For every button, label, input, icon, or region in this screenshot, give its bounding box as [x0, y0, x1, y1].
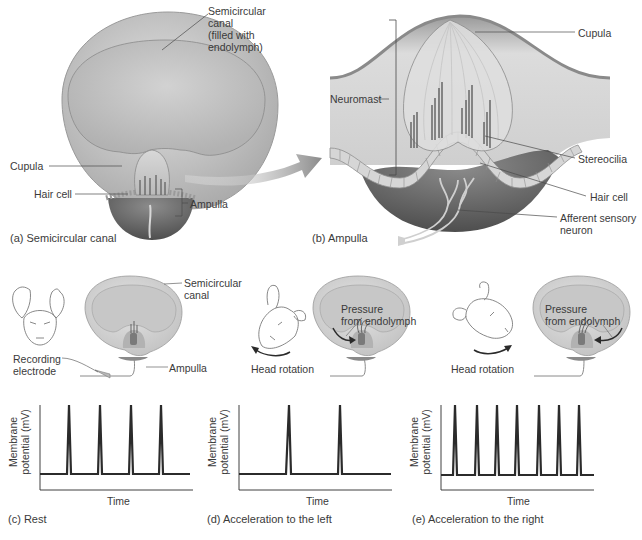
ylabel-graph-c: Membrane potential (mV): [7, 397, 31, 487]
label-hair-cell-b: Hair cell: [590, 191, 628, 203]
caption-a: (a) Semicircular canal: [10, 232, 116, 244]
label-pressure-d: Pressure from endolymph: [341, 303, 416, 327]
caption-c-text: Rest: [24, 513, 47, 525]
label-cupula-b: Cupula: [578, 27, 611, 39]
label-head-rotation-e: Head rotation: [451, 363, 514, 375]
caption-c-letter: (c): [8, 513, 21, 525]
xlabel-graph-e: Time: [507, 495, 530, 507]
label-pressure-e: Pressure from endolymph: [545, 303, 620, 327]
diagram-artwork: [0, 0, 642, 540]
caption-c: (c) Rest: [8, 513, 47, 525]
caption-d-letter: (d): [207, 513, 220, 525]
caption-e: (e) Acceleration to the right: [412, 513, 543, 525]
head-front-icon: [13, 287, 64, 345]
head-turned-right-icon: [453, 282, 513, 338]
label-stereocilia: Stereocilia: [578, 153, 627, 165]
caption-e-letter: (e): [412, 513, 425, 525]
caption-a-text: Semicircular canal: [27, 232, 117, 244]
label-ampulla-a: Ampulla: [190, 198, 228, 210]
graph-acceleration-left: [239, 405, 392, 490]
label-neuromast: Neuromast: [330, 93, 381, 105]
label-afferent-neuron: Afferent sensory neuron: [560, 212, 636, 236]
caption-a-letter: (a): [10, 232, 23, 244]
ylabel-graph-d: Membrane potential (mV): [206, 397, 230, 487]
caption-b: (b) Ampulla: [312, 232, 368, 244]
graph-acceleration-right: [441, 405, 594, 490]
xlabel-graph-c: Time: [107, 495, 130, 507]
caption-d: (d) Acceleration to the left: [207, 513, 332, 525]
ylabel-graph-e: Membrane potential (mV): [408, 397, 432, 487]
label-semicircular-canal: Semicircular canal (filled with endolymp…: [208, 5, 266, 53]
label-recording-electrode: Recording electrode: [13, 353, 61, 377]
label-cupula-a: Cupula: [10, 160, 43, 172]
label-ampulla-c: Ampulla: [169, 362, 207, 374]
label-head-rotation-d: Head rotation: [251, 363, 314, 375]
caption-e-text: Acceleration to the right: [428, 513, 544, 525]
caption-d-text: Acceleration to the left: [223, 513, 332, 525]
caption-b-letter: (b): [312, 232, 325, 244]
label-semicircular-canal-c: Semicircular canal: [184, 277, 242, 301]
label-hair-cell-a: Hair cell: [34, 188, 72, 200]
xlabel-graph-d: Time: [306, 495, 329, 507]
caption-b-text: Ampulla: [328, 232, 368, 244]
graph-rest: [40, 405, 193, 490]
head-turned-left-icon: [259, 285, 306, 348]
